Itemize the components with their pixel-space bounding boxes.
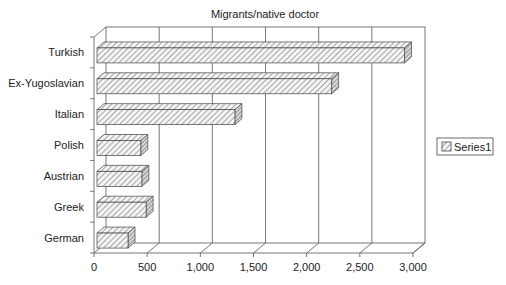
floor-gridline bbox=[307, 243, 319, 253]
y-tick-label: Turkish bbox=[48, 46, 84, 58]
x-tick-label: 2,000 bbox=[293, 261, 321, 273]
y-tick-label: Greek bbox=[54, 201, 84, 213]
floor-gridline bbox=[200, 243, 212, 253]
bar-german bbox=[97, 227, 135, 248]
legend-label: Series1 bbox=[454, 141, 491, 153]
x-axis: 05001,0001,5002,0002,5003,000 bbox=[91, 253, 427, 273]
x-tick-label: 0 bbox=[91, 261, 97, 273]
floor-gridline bbox=[360, 243, 372, 253]
chart-title: Migrants/native doctor bbox=[211, 8, 320, 20]
y-tick-label: Austrian bbox=[44, 170, 84, 182]
bar-greek bbox=[97, 196, 153, 217]
x-tick-label: 2,500 bbox=[346, 261, 374, 273]
floor-gridline bbox=[254, 243, 266, 253]
x-tick-label: 3,000 bbox=[399, 261, 427, 273]
plot-area bbox=[94, 27, 425, 253]
x-tick-label: 1,000 bbox=[187, 261, 215, 273]
y-tick-label: Ex-Yugoslavian bbox=[8, 77, 84, 89]
y-tick-label: Italian bbox=[55, 108, 84, 120]
x-tick-label: 500 bbox=[138, 261, 156, 273]
y-tick-label: Polish bbox=[54, 139, 84, 151]
x-tick-label: 1,500 bbox=[240, 261, 268, 273]
y-tick-label: German bbox=[44, 232, 84, 244]
floor-gridline bbox=[147, 243, 159, 253]
legend-swatch-icon bbox=[442, 142, 451, 151]
y-axis: TurkishEx-YugoslavianItalianPolishAustri… bbox=[8, 37, 94, 253]
bar-turkish bbox=[97, 42, 411, 63]
bar-austrian bbox=[97, 165, 149, 186]
legend: Series1 bbox=[437, 138, 493, 155]
bar-ex-yugoslavian bbox=[97, 73, 339, 94]
chart: Migrants/native doctor TurkishEx-Yugosla… bbox=[0, 0, 506, 285]
bar-polish bbox=[97, 135, 148, 156]
bar-italian bbox=[97, 104, 242, 125]
